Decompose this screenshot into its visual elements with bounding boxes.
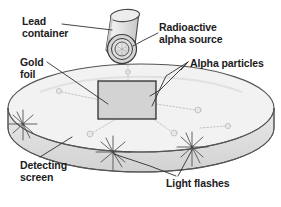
label-lead-container: Lead container [22, 16, 68, 39]
alpha-particle-dot-down-left [87, 131, 93, 137]
gold-foil-sheet [98, 81, 156, 119]
leader-line-lead-container [62, 24, 112, 30]
alpha-particle-dot-right [195, 107, 201, 113]
alpha-particle-dot-far-right [225, 123, 230, 128]
label-light-flashes: Light flashes [166, 178, 229, 190]
alpha-particle-dot-incoming [126, 70, 131, 75]
label-gold-foil: Gold foil [20, 57, 44, 80]
alpha-particle-dot-backscatter [56, 88, 61, 93]
rutherford-experiment-diagram: Lead container Gold foil Detecting scree… [0, 0, 281, 207]
label-radioactive-alpha-source: Radioactive alpha source [159, 22, 223, 45]
label-alpha-particles: Alpha particles [190, 58, 264, 70]
radioactive-alpha-source-aperture [108, 35, 137, 64]
alpha-particle-dot-down-right [171, 130, 177, 136]
gold-foil-highlight [100, 83, 154, 117]
label-detecting-screen: Detecting screen [20, 160, 67, 183]
